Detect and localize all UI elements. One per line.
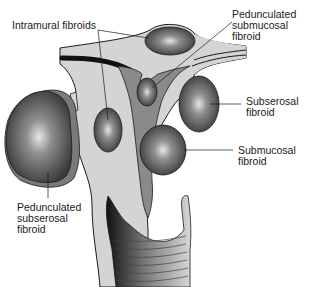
fibroid-intramural-left <box>94 108 122 152</box>
fibroid-pedunculated-subserosal <box>6 91 72 182</box>
fibroid-intramural-top <box>145 27 195 55</box>
fibroid-submucosal <box>140 125 186 175</box>
label-pedunculated-submucosal-fibroid: Pedunculated submucosal fibroid <box>232 9 296 42</box>
label-intramural-fibroids: Intramural fibroids <box>12 20 96 31</box>
label-pedunculated-subserosal-fibroid: Pedunculated subserosal fibroid <box>17 202 81 235</box>
label-submucosal-fibroid: Submucosal fibroid <box>238 145 296 167</box>
fibroid-pedunculated-submucosal <box>137 78 157 106</box>
label-subserosal-fibroid: Subserosal fibroid <box>246 96 299 118</box>
